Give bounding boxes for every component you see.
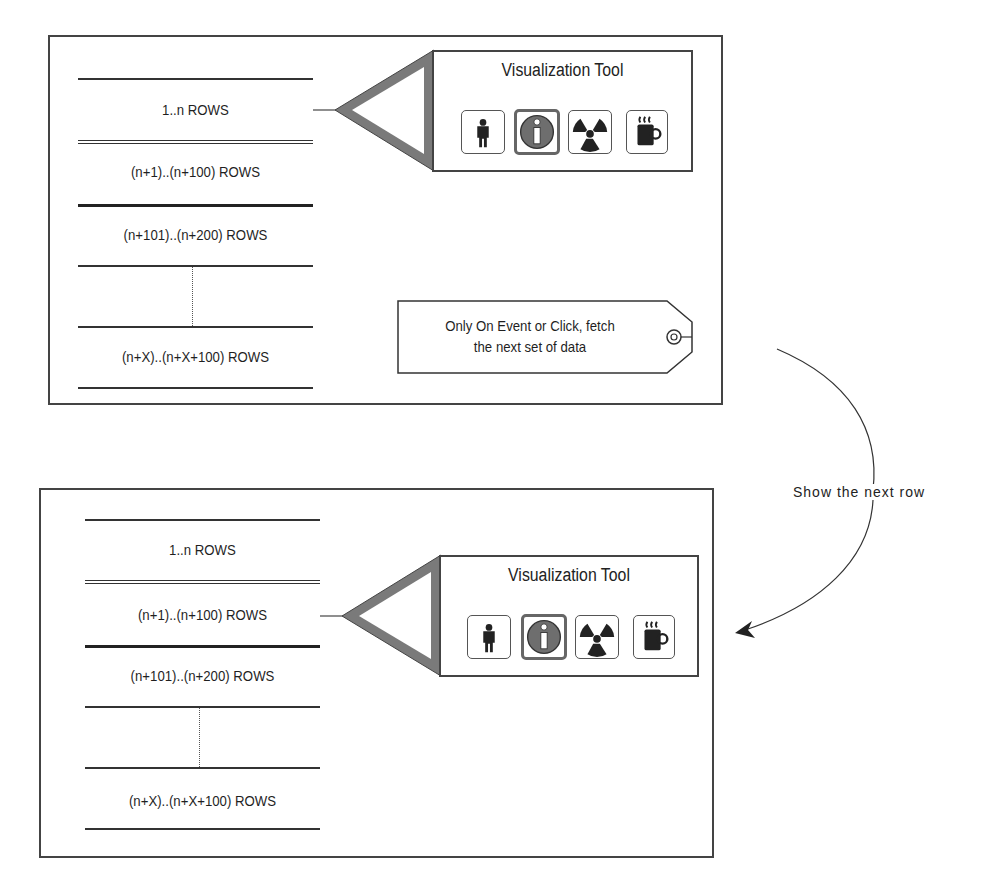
coffee-mug-icon (634, 616, 674, 658)
radiation-icon (576, 616, 618, 658)
tool-title: Visualization Tool (456, 565, 681, 586)
coffee-button[interactable] (633, 615, 675, 659)
person-icon (468, 616, 510, 658)
radiation-button[interactable] (575, 615, 619, 659)
pointer-arrow-after (0, 0, 985, 888)
person-button[interactable] (467, 615, 511, 659)
info-icon (524, 617, 564, 657)
info-button[interactable] (521, 614, 567, 660)
